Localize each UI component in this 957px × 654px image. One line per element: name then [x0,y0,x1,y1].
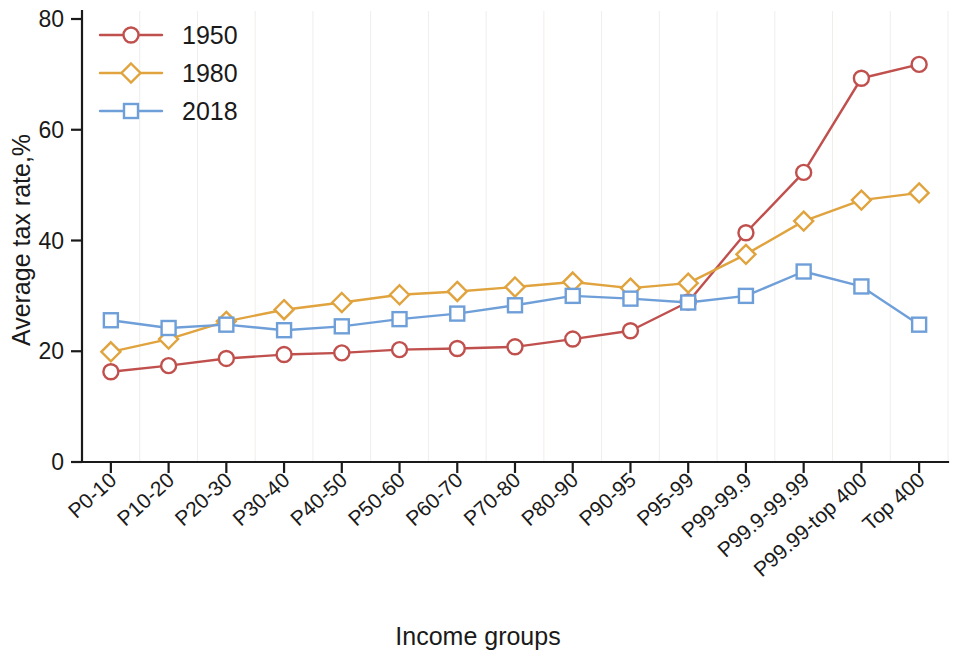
data-point-marker [797,265,811,279]
data-point-marker [450,341,465,356]
x-axis-title: Income groups [395,622,560,650]
data-point-marker [854,279,868,293]
data-point-marker [623,292,637,306]
legend-swatch-marker [124,104,138,118]
legend-label: 1980 [182,59,238,87]
data-point-marker [739,289,753,303]
legend-swatch-marker [124,28,139,43]
legend-label: 1950 [182,21,238,49]
data-point-marker [104,313,118,327]
y-tick-label: 40 [38,228,64,254]
data-point-marker [335,319,349,333]
chart-figure: 020406080 P0-10P10-20P20-30P30-40P40-50P… [0,0,957,654]
data-point-marker [565,332,580,347]
y-tick-label: 80 [38,6,64,32]
data-point-marker [450,307,464,321]
data-point-marker [277,323,291,337]
y-tick-label: 0 [51,449,64,475]
data-point-marker [508,339,523,354]
data-point-marker [738,225,753,240]
data-point-marker [161,358,176,373]
y-tick-label: 20 [38,338,64,364]
data-point-marker [566,289,580,303]
y-axis-title: Average tax rate,% [7,134,35,346]
data-point-marker [219,318,233,332]
chart-svg: 020406080 P0-10P10-20P20-30P30-40P40-50P… [0,0,957,654]
data-point-marker [623,323,638,338]
legend-label: 2018 [182,97,238,125]
data-point-marker [912,318,926,332]
data-point-marker [277,347,292,362]
data-point-marker [392,342,407,357]
data-point-marker [103,364,118,379]
data-point-marker [334,345,349,360]
data-point-marker [162,321,176,335]
data-point-marker [796,165,811,180]
data-point-marker [681,296,695,310]
y-tick-label: 60 [38,117,64,143]
data-point-marker [854,71,869,86]
chart-background [0,0,957,654]
data-point-marker [508,298,522,312]
data-point-marker [912,57,927,72]
data-point-marker [219,351,234,366]
data-point-marker [393,312,407,326]
